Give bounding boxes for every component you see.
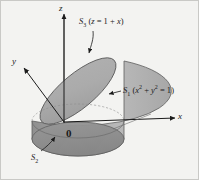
y-axis-label: y bbox=[12, 57, 16, 66]
z-axis-label: z bbox=[59, 4, 63, 13]
x-axis bbox=[64, 118, 175, 122]
figure-canvas: z y x 0 S3 (z = 1 + x) S1 (x2 + y2 = 1) … bbox=[0, 0, 199, 180]
s3-paren-close: ) bbox=[121, 16, 124, 26]
s2-subscript: 2 bbox=[35, 158, 38, 164]
surface-label-s3: S3 (z = 1 + x) bbox=[79, 17, 124, 28]
s3-equation-body: = 1 + bbox=[95, 16, 117, 26]
leader-line-s1 bbox=[109, 91, 121, 94]
surface-label-s1: S1 (x2 + y2 = 1) bbox=[123, 84, 174, 97]
origin-label: 0 bbox=[66, 128, 72, 139]
leader-line-s3 bbox=[89, 31, 93, 53]
surface-label-s2: S2 bbox=[31, 153, 38, 164]
s1-plus: + bbox=[142, 85, 151, 95]
x-axis-label: x bbox=[178, 112, 182, 121]
s1-paren-close: ) bbox=[171, 85, 174, 95]
s1-equals-one: = 1 bbox=[158, 85, 171, 95]
bottom-disk bbox=[32, 122, 124, 156]
